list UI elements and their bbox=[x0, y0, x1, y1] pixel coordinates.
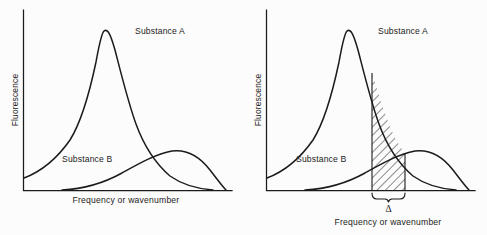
left-chart-svg: Substance A Substance B Frequency or wav… bbox=[0, 0, 243, 235]
left-chart-panel: Substance A Substance B Frequency or wav… bbox=[0, 0, 243, 235]
figure-root: Substance A Substance B Frequency or wav… bbox=[0, 0, 487, 235]
right-x-axis-label: Frequency or wavenumber bbox=[335, 217, 442, 227]
band-brace bbox=[372, 193, 405, 202]
right-chart-panel: Substance A Substance B Δ Frequency or w… bbox=[244, 0, 487, 235]
band-width-delta-label: Δ bbox=[385, 204, 391, 214]
right-label-substance-a: Substance A bbox=[378, 26, 428, 36]
right-chart-svg: Substance A Substance B Δ Frequency or w… bbox=[244, 0, 487, 235]
left-label-substance-b: Substance B bbox=[62, 154, 112, 164]
left-y-axis-label: Fluorescence bbox=[10, 74, 20, 127]
left-label-substance-a: Substance A bbox=[135, 26, 185, 36]
right-label-substance-b: Substance B bbox=[296, 154, 346, 164]
right-y-axis-label: Fluorescence bbox=[253, 74, 263, 127]
left-curve-substance-a bbox=[24, 30, 213, 190]
right-curve-substance-a bbox=[267, 30, 456, 190]
left-x-axis-label: Frequency or wavenumber bbox=[73, 195, 180, 205]
